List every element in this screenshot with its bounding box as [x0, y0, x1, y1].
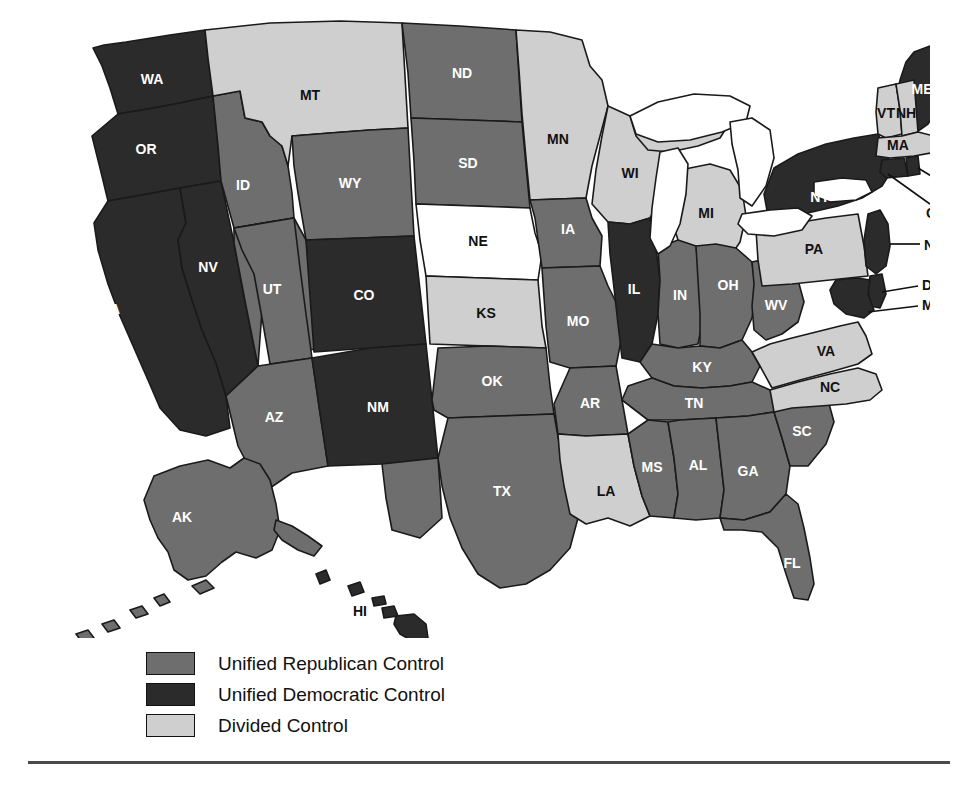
leader-line-DE — [882, 286, 918, 292]
legend-item-divided[interactable]: Divided Control — [146, 710, 566, 741]
state-label-IA: IA — [561, 221, 575, 237]
state-label-TN: TN — [685, 395, 704, 411]
callout-label-DE: DE — [922, 277, 930, 293]
state-label-WV: WV — [765, 297, 788, 313]
state-label-WI: WI — [621, 165, 638, 181]
legend-swatch-divided — [146, 714, 195, 737]
callout-label-CT: CT — [926, 205, 930, 221]
state-label-OK: OK — [482, 373, 503, 389]
us-party-control-map: WA OR CA NV ID MT WY UT AZ CO NM ND SD N… — [0, 0, 977, 785]
state-label-UT: UT — [263, 281, 282, 297]
state-label-CO: CO — [354, 287, 375, 303]
state-label-OH: OH — [718, 277, 739, 293]
state-label-IL: IL — [628, 281, 641, 297]
state-label-NY: NY — [810, 189, 830, 205]
state-label-NM: NM — [367, 399, 389, 415]
state-label-MN: MN — [547, 131, 569, 147]
state-label-NH: NH — [896, 105, 916, 121]
state-label-VT: VT — [877, 105, 895, 121]
leader-line-CT — [888, 174, 930, 204]
state-label-ME: ME — [912, 81, 931, 97]
state-label-AZ: AZ — [265, 409, 284, 425]
state-label-ND: ND — [452, 65, 472, 81]
state-TX-panhandle — [382, 458, 442, 538]
alaska-panhandle — [274, 520, 322, 556]
state-label-AL: AL — [689, 457, 708, 473]
state-label-AK: AK — [172, 509, 192, 525]
callout-label-NJ: NJ — [924, 237, 930, 253]
state-CT[interactable] — [880, 158, 908, 178]
legend-label-divided: Divided Control — [218, 715, 348, 737]
state-label-PA: PA — [805, 241, 823, 257]
state-HI[interactable] — [316, 570, 428, 638]
state-label-AR: AR — [580, 395, 600, 411]
state-label-NE: NE — [468, 233, 487, 249]
state-label-MA: MA — [887, 137, 909, 153]
state-label-MO: MO — [567, 313, 590, 329]
bottom-rule — [28, 761, 950, 764]
state-label-MI: MI — [698, 205, 714, 221]
state-label-OR: OR — [136, 141, 157, 157]
state-NJ[interactable] — [864, 210, 890, 274]
state-label-CA: CA — [100, 301, 120, 317]
state-label-GA: GA — [738, 463, 759, 479]
state-label-VA: VA — [817, 343, 835, 359]
state-TX[interactable] — [438, 414, 578, 588]
state-AK[interactable] — [144, 458, 280, 580]
state-label-MT: MT — [300, 87, 321, 103]
state-label-KS: KS — [476, 305, 495, 321]
state-label-HI: HI — [353, 603, 367, 619]
state-OH[interactable] — [696, 244, 756, 348]
state-label-SD: SD — [458, 155, 477, 171]
callout-label-MD: MD — [922, 297, 930, 313]
legend-label-democratic: Unified Democratic Control — [218, 684, 445, 706]
state-MD[interactable] — [830, 278, 874, 318]
state-label-SC: SC — [792, 423, 811, 439]
state-label-WY: WY — [339, 175, 362, 191]
legend-label-republican: Unified Republican Control — [218, 653, 444, 675]
state-NY[interactable] — [764, 134, 892, 218]
alaska-aleutians — [76, 580, 214, 638]
state-label-WA: WA — [141, 71, 164, 87]
legend-item-republican[interactable]: Unified Republican Control — [146, 648, 566, 679]
legend-item-democratic[interactable]: Unified Democratic Control — [146, 679, 566, 710]
state-label-FL: FL — [783, 555, 801, 571]
state-MN[interactable] — [516, 30, 608, 200]
state-label-NV: NV — [198, 259, 218, 275]
state-label-KY: KY — [692, 359, 712, 375]
state-label-MS: MS — [642, 459, 663, 475]
state-label-ID: ID — [236, 177, 250, 193]
us-map-svg: WA OR CA NV ID MT WY UT AZ CO NM ND SD N… — [30, 18, 930, 638]
legend-swatch-republican — [146, 652, 195, 675]
state-RI[interactable] — [906, 156, 920, 176]
state-label-NC: NC — [820, 379, 840, 395]
map-legend: Unified Republican Control Unified Democ… — [146, 648, 566, 741]
state-label-TX: TX — [493, 483, 512, 499]
state-label-LA: LA — [597, 483, 616, 499]
state-label-IN: IN — [673, 287, 687, 303]
legend-swatch-democratic — [146, 683, 195, 706]
